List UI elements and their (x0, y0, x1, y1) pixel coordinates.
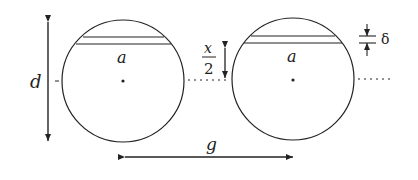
left-circle (62, 20, 184, 142)
diameter-label: d (30, 71, 42, 92)
left-center-dot (121, 79, 124, 82)
diagram-canvas: d a x 2 a δ g (0, 0, 418, 180)
gap-label: g (206, 134, 217, 154)
right-chord-label: a (287, 47, 297, 66)
thickness-label: δ (381, 31, 389, 47)
right-circle (232, 18, 354, 140)
thickness-marker (359, 24, 376, 56)
left-chord-label: a (117, 48, 127, 67)
half-x-denominator: 2 (204, 60, 214, 78)
half-x-numerator: x (204, 40, 212, 56)
right-center-dot (291, 78, 294, 81)
